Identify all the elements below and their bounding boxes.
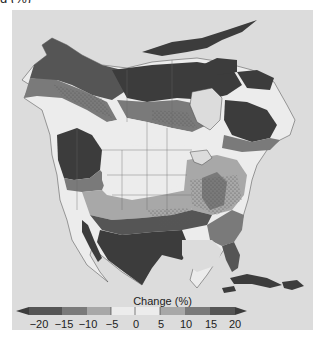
tick-label: 20 xyxy=(229,318,241,330)
tick-label: −5 xyxy=(106,318,119,330)
colorbar-extend-low xyxy=(16,307,29,315)
jamaica xyxy=(222,286,236,293)
colorbar-legend: Change (%) xyxy=(12,293,313,329)
arctic-islands xyxy=(142,20,257,56)
figure-page: g (%) xyxy=(0,0,322,338)
tick-label: 15 xyxy=(205,318,217,330)
tick-label: 5 xyxy=(158,318,164,330)
gulf-of-mexico xyxy=(182,240,222,272)
clipped-title-fragment: g (%) xyxy=(0,0,322,3)
map-panel: Change (%) xyxy=(12,10,313,330)
precipitation-change-map xyxy=(12,10,313,295)
tick-label: −20 xyxy=(30,318,49,330)
colorbar-tick-labels: −20 −15 −10 −5 0 5 10 15 20 xyxy=(12,318,313,330)
hispaniola xyxy=(282,280,304,290)
cuba xyxy=(230,274,282,288)
tick-label: 0 xyxy=(133,318,139,330)
region-mexico xyxy=(97,230,190,285)
colorbar-extend-high xyxy=(235,307,247,315)
tick-label: −10 xyxy=(79,318,98,330)
tick-label: −15 xyxy=(55,318,74,330)
colorbar xyxy=(12,293,313,319)
tick-label: 10 xyxy=(180,318,192,330)
region-florida xyxy=(222,242,240,272)
